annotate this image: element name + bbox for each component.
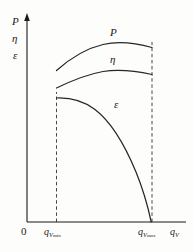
y-axis-label-npsh: ε xyxy=(13,50,17,61)
x-axis-label: qV xyxy=(170,227,179,237)
curve-power xyxy=(57,43,153,71)
plot-canvas xyxy=(0,0,193,252)
curve-label-npsh: ε xyxy=(114,99,118,110)
tick-qvmax-sub-max: max xyxy=(147,233,156,238)
tick-label-qvmin: qVmin xyxy=(44,227,61,237)
x-axis-label-sub: V xyxy=(175,231,179,238)
y-axis xyxy=(24,13,30,222)
y-axis-label-power: P xyxy=(12,16,19,27)
tick-label-qvmax: qVmax xyxy=(138,227,156,237)
curve-efficiency xyxy=(57,70,153,88)
tick-qvmin-sub-min: min xyxy=(53,233,61,238)
curve-npsh xyxy=(57,98,152,222)
pump-characteristic-curve-figure: P η ε P η ε 0 qVmin qVmax qV xyxy=(0,0,193,252)
y-axis-label-efficiency: η xyxy=(12,33,17,44)
curve-label-efficiency: η xyxy=(110,54,115,65)
origin-label: 0 xyxy=(21,226,27,237)
curve-label-power: P xyxy=(110,27,117,38)
